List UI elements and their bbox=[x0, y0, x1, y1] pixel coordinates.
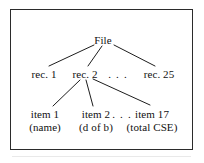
edge-rec2-item2 bbox=[86, 80, 93, 106]
node-item-17-label: item 17 bbox=[135, 108, 169, 120]
edge-rec2-item17 bbox=[93, 79, 150, 105]
node-item-1: item 1 (name) bbox=[29, 108, 61, 134]
node-item-2-label: item 2 bbox=[82, 108, 110, 120]
tree-diagram-figure: File rec. 1 rec. 2 . . . rec. 25 item 1 … bbox=[0, 0, 204, 163]
edge-file-rec25 bbox=[114, 45, 155, 66]
node-item-1-sublabel: (name) bbox=[29, 121, 61, 134]
node-rec-1: rec. 1 bbox=[31, 68, 56, 80]
node-item-2: item 2 (d of b) bbox=[79, 108, 113, 134]
record-level-ellipsis: . . . bbox=[108, 68, 128, 80]
edge-rec2-item1 bbox=[53, 80, 80, 106]
node-item-17-sublabel: (total CSE) bbox=[127, 121, 178, 134]
scan-artifact-line bbox=[12, 156, 191, 157]
edge-file-rec1 bbox=[49, 45, 94, 66]
node-item-17: item 17 (total CSE) bbox=[127, 108, 178, 134]
node-rec-2: rec. 2 bbox=[72, 68, 97, 80]
node-rec-25: rec. 25 bbox=[144, 68, 175, 80]
node-item-2-sublabel: (d of b) bbox=[79, 121, 113, 134]
node-root-file: File bbox=[94, 34, 112, 46]
tree-edges bbox=[0, 0, 204, 163]
edge-file-rec2 bbox=[88, 46, 102, 66]
node-item-1-label: item 1 bbox=[31, 108, 59, 120]
